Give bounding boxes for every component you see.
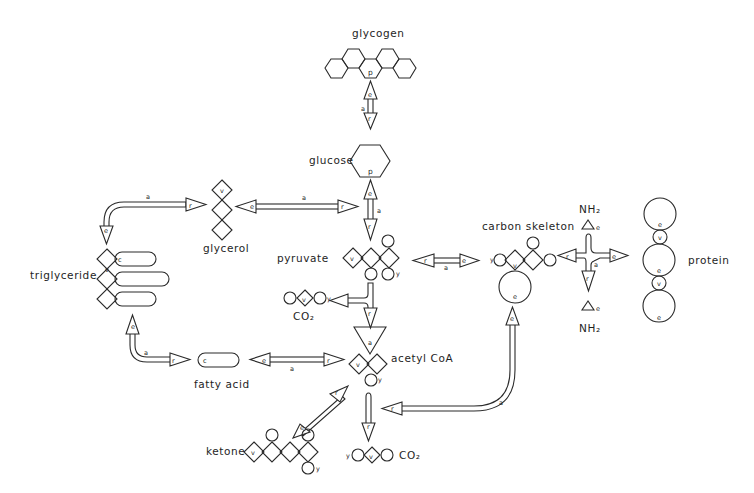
arrow-triglyceride-fattyacid: e a r [126,315,190,366]
svg-text:a: a [290,365,294,373]
arrow-acetylcoa-ketone: r e [293,386,348,438]
svg-text:c: c [118,256,122,264]
svg-text:y: y [378,376,382,384]
glucose-label: glucose [309,154,354,166]
svg-text:e: e [658,221,662,229]
svg-text:a: a [368,339,372,347]
svg-text:v: v [220,187,224,195]
co2-bottom-label: CO₂ [399,449,421,461]
svg-text:e: e [596,305,600,313]
svg-text:v: v [658,234,662,242]
arrow-acetylcoa-co2: r [362,393,375,441]
svg-text:r: r [368,223,371,231]
svg-text:r: r [327,357,330,365]
pyruvate-label: pyruvate [277,252,329,264]
svg-text:e: e [368,190,372,198]
nh2-bottom-node: e NH₂ [579,301,601,334]
svg-text:v: v [251,449,255,457]
metabolic-diagram: glycogen p e a r glucose p e a r [0,0,754,493]
svg-text:y: y [316,465,320,473]
svg-text:r: r [424,257,427,265]
co2-top-label: CO₂ [293,310,315,322]
svg-text:e: e [368,91,372,99]
ketone-label: ketone [206,445,245,457]
glucose-node: glucose p [309,145,390,177]
arrow-glycerol-triglyceride: r a e [100,193,206,244]
co2-bottom-node: y v CO₂ [346,447,421,463]
arrow-pyruvate-carbonskeleton: r a e [413,254,479,272]
fatty-acid-label: fatty acid [194,378,250,390]
pyruvate-node: pyruvate v y [277,235,400,280]
svg-text:r: r [586,275,589,283]
svg-text:e: e [657,314,661,322]
svg-text:y: y [346,452,350,460]
svg-text:e: e [596,224,600,232]
svg-text:v: v [369,453,373,461]
svg-text:a: a [377,207,381,215]
svg-text:a: a [361,105,365,113]
svg-text:r: r [335,389,338,397]
svg-text:v: v [302,296,306,304]
fatty-acid-node: c fatty acid [194,353,250,390]
acetyl-coa-label: acetyl CoA [391,352,453,364]
acetyl-coa-node: a v y acetyl CoA [349,327,453,386]
co2-top-node: v y CO₂ [284,290,331,322]
svg-text:e: e [462,257,466,265]
glycogen-label: glycogen [352,27,405,39]
svg-text:r: r [341,203,344,211]
svg-text:v: v [350,255,354,263]
arrow-pyruvate-acetylcoa: r [330,283,377,328]
glycogen-node: glycogen p [325,27,416,78]
arrow-glycerol-pyruvate: e a r [236,194,358,213]
carbon-skeleton-node: carbon skeleton y v e [482,220,575,303]
carbon-skeleton-label: carbon skeleton [482,220,575,232]
svg-text:r: r [189,202,192,210]
svg-text:v: v [356,361,360,369]
svg-text:v: v [657,280,661,288]
protein-label: protein [688,254,730,266]
svg-text:r: r [368,310,371,318]
svg-text:e: e [510,315,514,323]
arrow-glycogen-glucose: e a r [361,81,377,129]
arrow-transamination-cross: r a e r [558,234,628,291]
nh2-bottom-label: NH₂ [579,322,601,334]
glycerol-node: v glycerol [203,180,249,254]
svg-text:e: e [131,323,135,331]
nh2-top-node: NH₂ e [579,203,601,232]
svg-text:e: e [657,267,661,275]
svg-text:v: v [105,266,109,274]
glucose-p-marker: p [368,167,373,176]
triglyceride-node: triglyceride v c [30,249,169,309]
arrow-glucose-pyruvate: e a r [364,180,381,240]
svg-text:e: e [104,227,108,235]
svg-text:r: r [391,405,394,413]
svg-text:y: y [327,295,331,303]
svg-text:e: e [262,357,266,365]
svg-text:e: e [250,203,254,211]
svg-text:y: y [490,256,494,264]
svg-text:a: a [444,264,448,272]
svg-text:r: r [566,253,569,261]
svg-text:y: y [396,270,400,278]
svg-text:a: a [144,349,148,357]
svg-text:a: a [146,193,150,201]
svg-text:r: r [367,423,370,431]
svg-text:v: v [513,262,517,270]
svg-text:a: a [302,194,306,202]
arrow-fattyacid-acetylcoa: e a r [250,353,344,373]
svg-text:e: e [513,293,517,301]
svg-text:a: a [594,261,598,269]
protein-node: e v e v e protein [643,198,730,322]
glycogen-p-marker: p [368,68,373,77]
svg-text:r: r [172,357,175,365]
nh2-top-label: NH₂ [579,203,601,215]
triglyceride-label: triglyceride [30,269,97,281]
svg-text:e: e [612,253,616,261]
glycerol-label: glycerol [203,242,249,254]
svg-text:a: a [499,399,503,407]
svg-text:c: c [203,357,207,365]
svg-text:r: r [368,115,371,123]
